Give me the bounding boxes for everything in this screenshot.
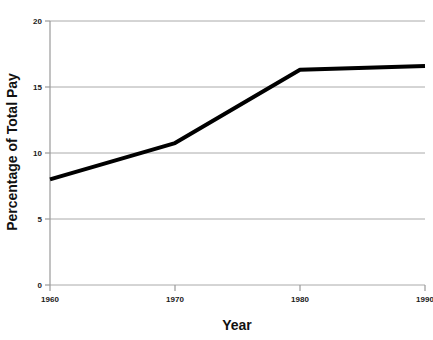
x-tick-label: 1960 — [41, 295, 59, 304]
x-tick-label: 1990 — [416, 295, 433, 304]
chart-background — [0, 0, 433, 340]
line-chart: 05101520 1960197019801990 Year Percentag… — [0, 0, 433, 340]
x-tick-label: 1980 — [291, 295, 309, 304]
chart-container: 05101520 1960197019801990 Year Percentag… — [0, 0, 433, 340]
y-tick-label: 20 — [33, 17, 42, 26]
y-tick-label: 15 — [33, 83, 42, 92]
x-axis-title: Year — [222, 317, 252, 333]
x-tick-label: 1970 — [166, 295, 184, 304]
y-axis-title: Percentage of Total Pay — [4, 73, 20, 231]
y-tick-label: 0 — [38, 281, 43, 290]
y-tick-label: 5 — [38, 215, 43, 224]
y-tick-label: 10 — [33, 149, 42, 158]
